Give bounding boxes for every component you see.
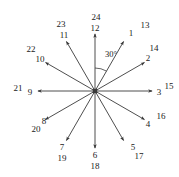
outer-label-15: 15 <box>165 82 174 91</box>
inner-label-12: 12 <box>91 24 100 33</box>
ray-arrow-5 <box>95 91 124 140</box>
ray-arrow-8 <box>46 91 95 120</box>
outer-label-13: 13 <box>141 21 150 30</box>
inner-label-7: 7 <box>60 143 65 152</box>
ray-arrow-10 <box>46 63 95 92</box>
outer-label-18: 18 <box>91 162 100 171</box>
ray-arrow-7 <box>67 91 96 140</box>
inner-label-3: 3 <box>157 88 162 97</box>
outer-label-14: 14 <box>150 44 159 53</box>
ray-arrow-4 <box>95 91 144 120</box>
outer-label-17: 17 <box>135 152 144 161</box>
radial-arrow-diagram: 1132143154165176187198209211022112312243… <box>0 0 179 177</box>
outer-label-23: 23 <box>57 20 66 29</box>
inner-label-6: 6 <box>93 151 98 160</box>
angle-arc <box>95 68 107 71</box>
outer-label-24: 24 <box>92 13 101 22</box>
inner-label-8: 8 <box>42 117 47 126</box>
inner-label-9: 9 <box>28 88 33 97</box>
inner-label-1: 1 <box>129 29 134 38</box>
angle-annotation-label: 30° <box>105 50 117 59</box>
outer-label-20: 20 <box>32 125 41 134</box>
outer-label-21: 21 <box>14 84 23 93</box>
inner-label-2: 2 <box>146 54 151 63</box>
inner-label-4: 4 <box>146 120 151 129</box>
outer-label-22: 22 <box>27 45 36 54</box>
outer-label-19: 19 <box>58 154 67 163</box>
ray-arrow-2 <box>95 63 144 92</box>
ray-arrow-11 <box>67 42 96 91</box>
inner-label-10: 10 <box>36 55 45 64</box>
outer-label-16: 16 <box>157 112 166 121</box>
inner-label-11: 11 <box>60 31 69 40</box>
